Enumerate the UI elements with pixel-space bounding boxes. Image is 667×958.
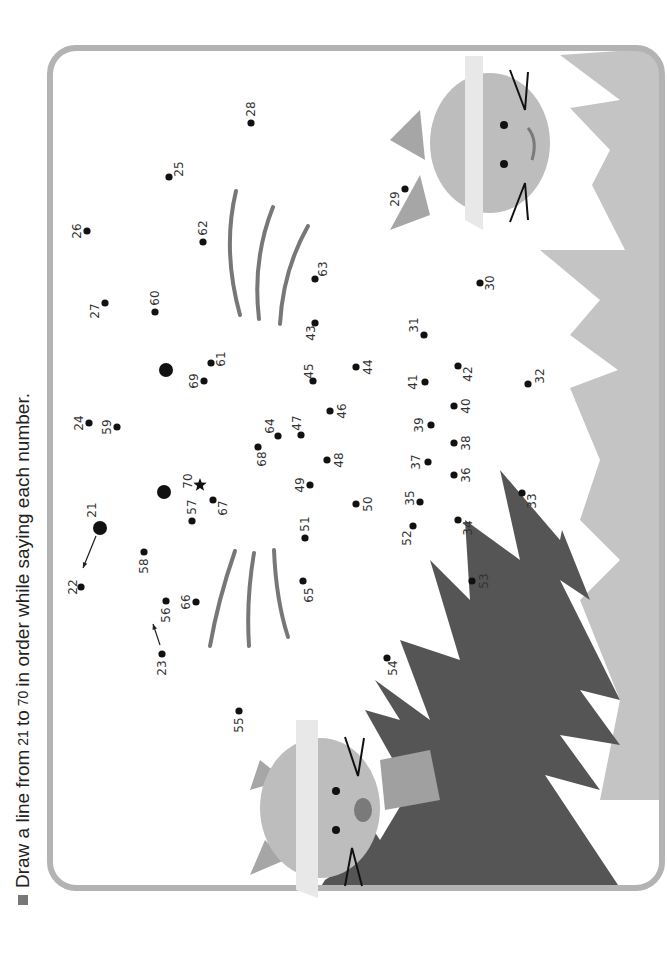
- dot-label: 35: [403, 490, 417, 505]
- dot-point-64[interactable]: 64: [263, 418, 282, 439]
- dot-icon: [140, 548, 147, 555]
- dot-label: 54: [386, 660, 400, 675]
- dot-point-38[interactable]: 38: [450, 435, 473, 450]
- dot-point-43[interactable]: 43: [304, 319, 319, 340]
- dot-point-40[interactable]: 40: [450, 398, 473, 413]
- dot-point-27[interactable]: 27: [88, 299, 109, 318]
- dot-label: 26: [70, 223, 84, 238]
- dot-icon: [450, 439, 457, 446]
- dot-icon: [158, 650, 165, 657]
- dot-icon: [297, 431, 304, 438]
- dot-point-45[interactable]: 45: [302, 363, 317, 384]
- dot-point-50[interactable]: 50: [352, 496, 375, 511]
- dot-icon: [113, 423, 120, 430]
- dot-point-65[interactable]: 65: [299, 577, 316, 602]
- dot-icon: [450, 471, 457, 478]
- dot-icon: [301, 534, 308, 541]
- dot-point-21[interactable]: 21: [85, 502, 107, 535]
- cat-eye: [332, 787, 340, 795]
- dot-point-24[interactable]: 24: [72, 415, 93, 430]
- dot-label: 46: [335, 403, 349, 418]
- dot-label: 67: [216, 500, 230, 515]
- dot-point-52[interactable]: 52: [400, 522, 417, 545]
- dot-label: 51: [298, 516, 312, 531]
- dot-icon: [306, 481, 313, 488]
- dot-label: 31: [407, 317, 421, 332]
- dot-icon: [235, 707, 242, 714]
- dot-point-34[interactable]: 34: [454, 516, 475, 535]
- dot-point-46[interactable]: 46: [326, 403, 349, 418]
- dot-point-54[interactable]: 54: [383, 654, 400, 675]
- dot-point-55[interactable]: 55: [232, 707, 246, 732]
- dot-point-68[interactable]: 68: [254, 443, 269, 466]
- dot-icon: [323, 456, 330, 463]
- dot-point-69[interactable]: 69: [187, 373, 208, 388]
- dot-point-62[interactable]: 62: [196, 220, 210, 245]
- dot-label: 24: [72, 415, 86, 430]
- dot-icon: [409, 522, 416, 529]
- dot-point-44[interactable]: 44: [352, 359, 375, 374]
- dot-point-67[interactable]: 67: [209, 496, 230, 515]
- dot-point-41[interactable]: 41: [406, 374, 429, 389]
- dot-label: 49: [293, 477, 307, 492]
- cat-eye: [500, 121, 508, 129]
- dot-icon: [188, 517, 195, 524]
- dot-point-51[interactable]: 51: [298, 516, 312, 541]
- star-icon: [193, 478, 206, 491]
- dot-label: 22: [66, 579, 80, 594]
- dot-label: 38: [459, 435, 473, 450]
- dot-point-31[interactable]: 31: [407, 317, 428, 338]
- dot-label: 28: [244, 101, 258, 116]
- dot-icon: [421, 378, 428, 385]
- cat-top-right: [390, 56, 550, 230]
- dot-label: 44: [361, 359, 375, 374]
- dot-point-36[interactable]: 36: [450, 467, 473, 482]
- worksheet: Draw a line from 21 to 70 in order while…: [0, 0, 667, 958]
- dot-label: 61: [214, 351, 228, 366]
- dot-label: 69: [187, 373, 201, 388]
- cat-ear: [390, 110, 425, 160]
- dot-point-37[interactable]: 37: [409, 454, 432, 469]
- dot-point-22[interactable]: 22: [66, 579, 85, 594]
- dot-icon: [192, 598, 199, 605]
- dot-point-66[interactable]: 66: [179, 594, 200, 609]
- dot-icon: [524, 380, 531, 387]
- dot-label: 60: [148, 290, 162, 305]
- dot-point-48[interactable]: 48: [323, 452, 346, 467]
- dot-label: 45: [302, 363, 316, 378]
- dot-point-28[interactable]: 28: [244, 101, 258, 126]
- dot-icon: [101, 299, 108, 306]
- dot-point-25[interactable]: 25: [165, 161, 186, 180]
- dot-point-26[interactable]: 26: [70, 223, 91, 238]
- dot-icon: [151, 308, 158, 315]
- dot-point-32[interactable]: 32: [524, 368, 547, 387]
- dot-point-47[interactable]: 47: [290, 415, 305, 438]
- dot-point-60[interactable]: 60: [148, 290, 162, 315]
- dot-label: 47: [290, 415, 304, 430]
- dot-label: 23: [155, 660, 169, 675]
- dot-icon: [424, 458, 431, 465]
- dot-label: 66: [179, 594, 193, 609]
- dot-point-63[interactable]: 63: [311, 261, 330, 282]
- dot-label: 57: [185, 499, 199, 514]
- dot-point-39[interactable]: 39: [412, 417, 435, 432]
- dot-point-30[interactable]: 30: [476, 275, 497, 290]
- cat-face: [430, 73, 550, 213]
- dot-point-61[interactable]: 61: [207, 351, 228, 366]
- dot-point-58[interactable]: 58: [137, 548, 151, 573]
- dot-label: 40: [459, 398, 473, 413]
- dot-point-49[interactable]: 49: [293, 477, 314, 492]
- puzzle-canvas[interactable]: 2122232425262728293031323334353637383940…: [0, 0, 667, 958]
- dot-point-56[interactable]: 56: [159, 597, 173, 622]
- dot-icon: [85, 419, 92, 426]
- dot-point-23[interactable]: 23: [155, 650, 169, 675]
- dot-icon: [416, 498, 423, 505]
- dot-point-35[interactable]: 35: [403, 490, 424, 505]
- dot-point-42[interactable]: 42: [454, 362, 475, 381]
- dot-icon: [247, 119, 254, 126]
- dot-label: 32: [533, 368, 547, 383]
- dot-point-59[interactable]: 59: [100, 419, 121, 434]
- dot-point-57[interactable]: 57: [185, 499, 199, 524]
- dot-point-70[interactable]: 70: [181, 473, 207, 490]
- cat-mask: [465, 56, 483, 230]
